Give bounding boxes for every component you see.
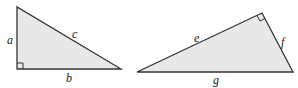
triangle-right-shape: [137, 13, 293, 72]
label-c: c: [72, 27, 78, 41]
triangles-figure: a b c e f g: [0, 0, 298, 88]
label-a: a: [7, 33, 13, 47]
label-e: e: [194, 31, 200, 45]
right-triangle-abc: a b c: [7, 7, 121, 85]
right-triangle-efg: e f g: [137, 13, 293, 87]
label-b: b: [66, 71, 72, 85]
label-g: g: [213, 73, 219, 87]
triangle-left-shape: [17, 7, 121, 69]
label-f: f: [281, 35, 286, 49]
diagram: a b c e f g: [0, 0, 298, 88]
